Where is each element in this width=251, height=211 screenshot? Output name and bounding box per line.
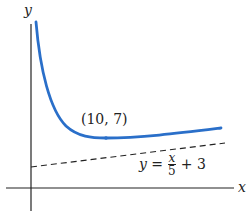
min-point-marker [104, 136, 108, 140]
asymptote-equation: y = x 5 + 3 [139, 152, 206, 177]
curve [36, 22, 221, 138]
y-axis-label: y [24, 2, 32, 18]
eq-denominator: 5 [168, 165, 177, 177]
eq-fraction: x 5 [168, 152, 177, 177]
chart-canvas [0, 0, 251, 211]
x-axis-label: x [238, 179, 246, 195]
eq-rhs: + 3 [181, 156, 206, 172]
eq-lhs: y = [139, 156, 163, 172]
point-label: (10, 7) [81, 111, 128, 127]
